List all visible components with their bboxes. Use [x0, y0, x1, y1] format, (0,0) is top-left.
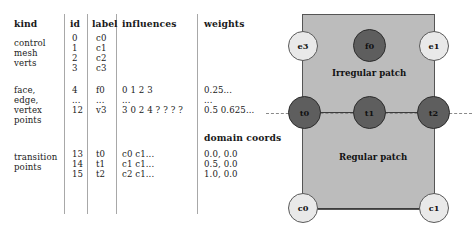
cell-label: ... — [96, 95, 105, 106]
node-label: e3 — [298, 41, 309, 51]
header-kind: kind — [14, 19, 37, 30]
cell-label: t1 — [96, 159, 105, 170]
kind-label-line: points — [14, 162, 41, 173]
node-f0[interactable]: f0 — [353, 29, 386, 62]
patch-diagram: Irregular patch Regular patch e3 f0 e1 t… — [262, 0, 475, 233]
cell-influences: 0 1 2 3 — [122, 85, 153, 96]
kind-label-line: edge, — [14, 95, 38, 106]
cell-label: t2 — [96, 169, 105, 180]
cell-id: 14 — [72, 159, 83, 170]
kind-label-line: verts — [14, 58, 36, 69]
node-label: t1 — [365, 108, 374, 118]
cell-influences: c0 c1... — [122, 149, 154, 160]
cell-weights: 0.5, 0.0 — [204, 159, 238, 170]
cell-influences: ... — [122, 95, 131, 106]
cell-weights: 0.0, 0.0 — [204, 149, 238, 160]
node-label: t0 — [300, 108, 309, 118]
column-rule-infl-wts — [197, 14, 198, 214]
kind-label-line: face, — [14, 85, 35, 96]
cell-id: 1 — [72, 43, 78, 54]
column-rule-kind-id — [64, 14, 65, 214]
cell-label: f0 — [96, 85, 105, 96]
kind-label-line: mesh — [14, 48, 38, 59]
cell-influences: c1 c1... — [122, 159, 154, 170]
kind-label-line: control — [14, 38, 46, 49]
cell-id: 2 — [72, 53, 78, 64]
cell-id: 0 — [72, 33, 78, 44]
node-t2[interactable]: t2 — [417, 96, 450, 129]
header-weights: weights — [204, 19, 244, 30]
column-rule-label-infl — [116, 14, 117, 214]
column-rule-id-label — [87, 14, 88, 214]
cell-id: 15 — [72, 169, 83, 180]
cell-label: t0 — [96, 149, 105, 160]
cell-label: c2 — [96, 53, 106, 64]
cell-label: c0 — [96, 33, 106, 44]
cell-id: 12 — [72, 105, 83, 116]
node-e3[interactable]: e3 — [288, 31, 318, 61]
cell-weights: 0.5 0.625... — [204, 105, 254, 116]
cell-label: c3 — [96, 63, 106, 74]
attribute-table: kind id label influences weights control… — [0, 0, 290, 233]
cell-id: 4 — [72, 85, 78, 96]
cell-id: 3 — [72, 63, 78, 74]
kind-label-line: transition — [14, 152, 57, 163]
cell-influences: c2 c1... — [122, 169, 154, 180]
node-t1[interactable]: t1 — [353, 96, 386, 129]
cell-id: 13 — [72, 149, 83, 160]
cell-weights: 1.0, 0.0 — [204, 169, 238, 180]
node-t0[interactable]: t0 — [288, 96, 321, 129]
node-label: c0 — [298, 203, 309, 213]
cell-label: c1 — [96, 43, 106, 54]
kind-label-line: vertex — [14, 105, 42, 116]
regular-patch-label: Regular patch — [339, 152, 407, 162]
kind-label-line: points — [14, 115, 41, 126]
node-c1[interactable]: c1 — [419, 193, 449, 223]
cell-id: ... — [72, 95, 81, 106]
node-label: t2 — [429, 108, 438, 118]
header-id: id — [70, 19, 80, 30]
cell-label: v3 — [96, 105, 107, 116]
irregular-patch-label: Irregular patch — [332, 68, 406, 78]
edge-c0-c1 — [308, 208, 429, 209]
node-e1[interactable]: e1 — [419, 31, 449, 61]
cell-weights: 0.25... — [204, 85, 232, 96]
header-label: label — [92, 19, 118, 30]
figure-root: kind id label influences weights control… — [0, 0, 475, 233]
node-label: e1 — [429, 41, 440, 51]
node-label: f0 — [365, 41, 374, 51]
cell-weights: ... — [204, 95, 213, 106]
node-c0[interactable]: c0 — [288, 193, 318, 223]
header-influences: influences — [122, 19, 176, 30]
node-label: c1 — [429, 203, 440, 213]
cell-influences: 3 0 2 4 ? ? ? ? — [122, 105, 183, 116]
